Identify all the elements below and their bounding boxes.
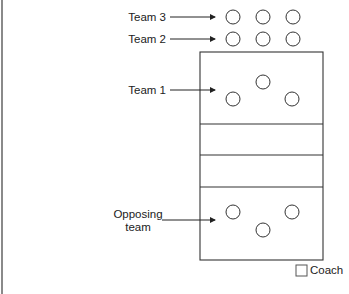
player-circle-icon [256,32,270,46]
player-circle-icon [285,92,299,106]
court-diagram [0,0,349,294]
player-circle-icon [256,75,270,89]
player-circle-icon [285,205,299,219]
team2-label: Team 2 [110,33,166,46]
player-circle-icon [226,10,240,24]
opposing-team-label-line2: team [112,221,164,234]
player-circle-icon [226,205,240,219]
coach-label: Coach [310,264,343,277]
coach-square-icon [296,265,307,276]
player-circle-icon [226,92,240,106]
team3-players [226,10,300,24]
player-circle-icon [226,32,240,46]
player-circle-icon [286,32,300,46]
team1-label: Team 1 [110,84,166,97]
player-circle-icon [256,223,270,237]
team2-players [226,32,300,46]
opposing-team-label-line1: Opposing [112,208,164,221]
opposing-team-label: Opposing team [112,208,164,234]
player-circle-icon [286,10,300,24]
team1-players [226,75,299,106]
opposing-team-players [226,205,299,237]
team3-label: Team 3 [110,11,166,24]
player-circle-icon [256,10,270,24]
